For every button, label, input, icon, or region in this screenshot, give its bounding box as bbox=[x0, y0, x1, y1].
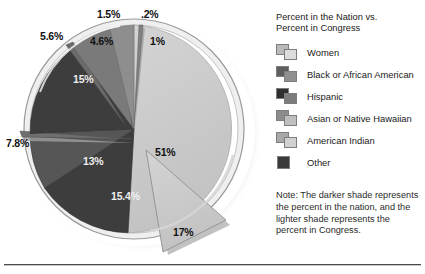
slice-label-46: 4.6% bbox=[90, 36, 113, 47]
slice-label-56: 5.6% bbox=[40, 31, 63, 42]
bottom-divider bbox=[4, 264, 421, 265]
legend-label-women: Women bbox=[307, 48, 339, 57]
legend-swatch-asian-or-native-hawaiian bbox=[276, 110, 300, 127]
legend-label-hispanic: Hispanic bbox=[307, 92, 343, 101]
slice-label-1: 1% bbox=[150, 36, 165, 47]
legend-item-hispanic: Hispanic bbox=[276, 86, 425, 108]
legend-swatch-american-indian bbox=[276, 132, 300, 149]
pie-area: 51% 17% 15.4% 13% 7.8% 15% 5.6% 4.6% 1.5… bbox=[0, 0, 268, 274]
legend-item-black-or-african-american: Black or African American bbox=[276, 64, 425, 86]
legend-swatch-hispanic bbox=[276, 88, 300, 105]
legend-label-black-or-african-american: Black or African American bbox=[307, 70, 414, 79]
slice-label-15: 15% bbox=[73, 74, 93, 85]
legend-label-asian-or-native-hawaiian: Asian or Native Hawaiian bbox=[307, 114, 412, 123]
slice-label-78: 7.8% bbox=[6, 138, 29, 149]
slice-label-13: 13% bbox=[83, 156, 103, 167]
slice-label-02: .2% bbox=[141, 9, 159, 20]
legend-item-other: Other bbox=[276, 152, 425, 174]
legend-label-american-indian: American Indian bbox=[307, 136, 375, 145]
pie-chart-figure: 51% 17% 15.4% 13% 7.8% 15% 5.6% 4.6% 1.5… bbox=[0, 0, 425, 274]
legend-item-american-indian: American Indian bbox=[276, 130, 425, 152]
legend-list: Women Black or African American Hispanic bbox=[276, 42, 425, 174]
legend-item-women: Women bbox=[276, 42, 425, 64]
legend-title: Percent in the Nation vs. Percent in Con… bbox=[276, 12, 425, 35]
legend: Percent in the Nation vs. Percent in Con… bbox=[276, 12, 425, 174]
slice-label-51: 51% bbox=[155, 147, 175, 158]
slice-label-17: 17% bbox=[173, 227, 193, 238]
legend-title-line1: Percent in the Nation vs. bbox=[276, 12, 425, 23]
chart-note: Note: The darker shade represents the pe… bbox=[276, 190, 422, 237]
slice-label-15pct: 1.5% bbox=[97, 9, 120, 20]
legend-swatch-other bbox=[276, 154, 300, 171]
legend-item-asian-or-native-hawaiian: Asian or Native Hawaiian bbox=[276, 108, 425, 130]
legend-swatch-black-or-african-american bbox=[276, 66, 300, 83]
legend-swatch-women bbox=[276, 44, 300, 61]
slice-label-154: 15.4% bbox=[111, 191, 140, 202]
legend-title-line2: Percent in Congress bbox=[276, 23, 425, 34]
legend-label-other: Other bbox=[307, 158, 330, 167]
